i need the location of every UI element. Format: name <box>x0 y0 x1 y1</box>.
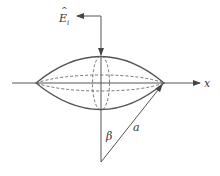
angle-beta-label: β <box>105 130 112 143</box>
triangle-hypotenuse-a <box>101 85 162 162</box>
incident-field-label: Ei <box>58 12 69 27</box>
spheroid-diagram: Ei ^ x β a <box>0 0 220 176</box>
x-axis-label: x <box>204 77 211 90</box>
field-hat: ^ <box>61 5 68 14</box>
radius-a-label: a <box>133 121 140 134</box>
